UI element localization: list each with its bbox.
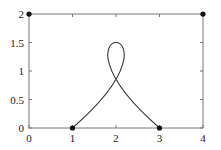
x-tick-label: 1	[70, 132, 76, 144]
control-point-marker	[200, 11, 205, 16]
control-point-marker	[26, 11, 31, 16]
control-points	[26, 11, 205, 130]
y-axis: 00.511.52	[10, 8, 203, 134]
x-tick-label: 0	[26, 132, 32, 144]
y-tick-label: 0	[19, 122, 25, 134]
plot-frame	[29, 14, 203, 128]
bezier-curve	[73, 43, 160, 129]
y-tick-label: 1.5	[10, 37, 24, 49]
y-tick-label: 2	[19, 8, 25, 20]
control-point-marker	[70, 125, 75, 130]
x-tick-label: 4	[200, 132, 206, 144]
bezier-chart: 01234 00.511.52	[0, 0, 221, 150]
y-tick-label: 1	[19, 65, 25, 77]
x-tick-label: 3	[157, 132, 163, 144]
x-tick-label: 2	[113, 132, 119, 144]
control-point-marker	[157, 125, 162, 130]
y-tick-label: 0.5	[10, 94, 24, 106]
